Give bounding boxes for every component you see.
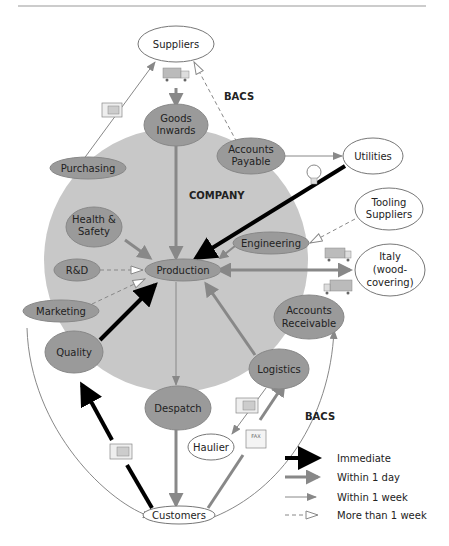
telephone-icon [236,398,258,413]
telephone-icon [102,103,122,117]
svg-text:Purchasing: Purchasing [61,163,116,174]
svg-text:Tooling: Tooling [371,197,407,208]
svg-text:covering): covering) [366,277,413,288]
svg-text:Suppliers: Suppliers [366,209,412,220]
svg-text:Safety: Safety [78,226,110,237]
svg-text:Inwards: Inwards [156,125,195,136]
customers-fax-line [208,455,243,508]
svg-text:Marketing: Marketing [36,306,86,317]
svg-text:Logistics: Logistics [257,364,300,375]
svg-text:Immediate: Immediate [337,453,391,464]
node-logistics[interactable]: Logistics [249,349,309,389]
svg-text:Customers: Customers [152,510,206,521]
truck-icon [163,68,189,82]
node-suppliers[interactable]: Suppliers [138,26,214,62]
customers-quality-line [127,465,152,508]
node-production[interactable]: Production [145,259,221,281]
legend-item-within-1-day: Within 1 day [285,472,400,483]
legend-item-immediate: Immediate [285,453,391,464]
legend: Immediate Within 1 day Within 1 week Mor… [285,453,427,521]
svg-text:Payable: Payable [231,156,270,167]
svg-text:Accounts: Accounts [228,144,274,155]
bacs-top-label: BACS [224,91,254,102]
svg-text:FAX: FAX [251,433,261,439]
telephone-icon [110,444,132,459]
svg-text:Haulier: Haulier [193,442,230,453]
customers-quality-arrow [82,385,112,440]
svg-text:Receivable: Receivable [282,318,336,329]
svg-text:Within 1 week: Within 1 week [337,492,408,503]
svg-text:Accounts: Accounts [286,305,332,316]
svg-text:(wood-: (wood- [373,264,408,275]
node-purchasing[interactable]: Purchasing [50,157,126,179]
svg-text:Despatch: Despatch [154,403,201,414]
node-accounts-receivable[interactable]: Accounts Receivable [274,295,344,339]
tooling-engineering-arrow [310,219,355,243]
svg-text:Within 1 day: Within 1 day [337,472,400,483]
svg-text:Engineering: Engineering [241,238,301,249]
node-italy[interactable]: Italy (wood- covering) [355,244,425,296]
legend-item-within-1-week: Within 1 week [285,492,408,503]
svg-text:Quality: Quality [56,347,92,358]
svg-text:Italy: Italy [379,251,401,262]
node-tooling-suppliers[interactable]: Tooling Suppliers [355,188,423,230]
fax-icon: FAX [246,430,266,448]
node-engineering[interactable]: Engineering [233,232,309,254]
svg-text:Utilities: Utilities [354,151,392,162]
legend-item-more-than-1-week: More than 1 week [285,510,427,521]
node-rnd[interactable]: R&D [54,259,100,281]
node-health-safety[interactable]: Health & Safety [66,207,122,247]
company-label: COMPANY [189,190,245,201]
node-quality[interactable]: Quality [45,331,103,373]
svg-text:Goods: Goods [160,113,192,124]
node-goods-inwards[interactable]: Goods Inwards [144,104,208,146]
bacs-bottom-label: BACS [305,411,335,422]
svg-text:Production: Production [156,265,209,276]
node-utilities[interactable]: Utilities [343,138,403,174]
svg-text:More than 1 week: More than 1 week [337,510,427,521]
node-haulier[interactable]: Haulier [188,434,234,460]
truck-icon [324,280,352,295]
svg-text:Suppliers: Suppliers [153,39,199,50]
truck-icon [325,248,351,262]
svg-text:Health &: Health & [72,214,116,225]
node-marketing[interactable]: Marketing [23,300,99,322]
svg-text:R&D: R&D [66,265,89,276]
node-customers[interactable]: Customers [143,506,215,524]
node-accounts-payable[interactable]: Accounts Payable [217,138,285,174]
node-despatch[interactable]: Despatch [145,386,211,430]
information-flow-diagram: COMPANY BACS BACS Suppliers Utilitie [0,0,449,546]
